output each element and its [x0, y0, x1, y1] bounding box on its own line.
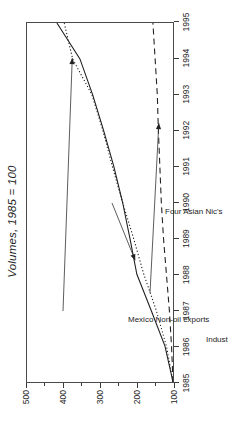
y-tick-mark [100, 383, 101, 388]
x-tick-label: 1985 [181, 374, 191, 393]
x-tick-label: 1988 [181, 265, 191, 284]
y-tick-label: 400 [58, 390, 68, 423]
x-tick-mark [174, 166, 179, 167]
x-tick-label: 1994 [181, 49, 191, 68]
x-tick-mark [174, 238, 179, 239]
x-tick-mark [174, 58, 179, 59]
y-tick-mark [118, 383, 119, 386]
series-line-2 [153, 23, 173, 382]
x-tick-label: 1993 [181, 85, 191, 104]
chart-title: Volumes, 1985 = 100 [6, 0, 18, 443]
x-tick-mark [174, 94, 179, 95]
x-tick-label: 1992 [181, 121, 191, 140]
x-tick-label: 1986 [181, 337, 191, 356]
x-tick-label: 1989 [181, 229, 191, 248]
annotation-nics: Four Asian Nic's [165, 207, 223, 216]
series-line-1 [64, 23, 173, 382]
x-tick-mark [174, 310, 179, 311]
annotation-mexico: Mexico Non-oil exports [128, 315, 209, 324]
y-tick-mark [63, 383, 64, 388]
x-tick-mark [174, 383, 179, 384]
x-tick-label: 1995 [181, 13, 191, 32]
plot-area [26, 22, 174, 383]
y-tick-label: 500 [21, 390, 31, 423]
chart-screenshot: Volumes, 1985 = 100 19851986198719881989… [0, 0, 228, 443]
x-tick-mark [174, 130, 179, 131]
x-tick-mark [174, 22, 179, 23]
y-tick-label: 200 [132, 390, 142, 423]
y-tick-mark [174, 383, 175, 388]
x-tick-mark [174, 274, 179, 275]
x-tick-mark [174, 346, 179, 347]
x-tick-label: 1991 [181, 157, 191, 176]
plot-lines [27, 23, 173, 382]
y-tick-mark [137, 383, 138, 388]
y-tick-mark [26, 383, 27, 388]
annotation-industrial: Industrial Countries [206, 335, 228, 344]
rotated-figure-wrapper: Volumes, 1985 = 100 19851986198719881989… [0, 0, 228, 443]
x-tick-mark [174, 202, 179, 203]
y-tick-label: 300 [95, 390, 105, 423]
y-tick-label: 100 [169, 390, 179, 423]
y-tick-mark [81, 383, 82, 386]
figure: Volumes, 1985 = 100 19851986198719881989… [0, 0, 228, 443]
y-tick-mark [155, 383, 156, 386]
y-tick-mark [44, 383, 45, 386]
series-line-0 [57, 23, 173, 382]
